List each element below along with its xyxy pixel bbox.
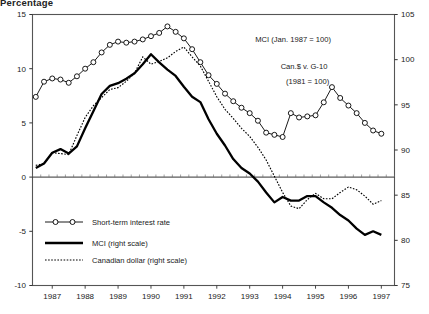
y2-axis-label: 90 <box>401 146 410 155</box>
data-point-marker <box>157 30 162 35</box>
y-axis-label: 5 <box>22 119 27 128</box>
data-point-marker <box>190 47 195 52</box>
x-axis-label: 1993 <box>241 292 259 301</box>
data-point-marker <box>74 74 79 79</box>
data-point-marker <box>354 111 359 116</box>
y2-axis-label: 95 <box>401 101 410 110</box>
x-axis-label: 1989 <box>109 292 127 301</box>
x-axis-label: 1988 <box>76 292 94 301</box>
chart-annotation-1: MCI (Jan. 1987 = 100) <box>255 35 331 44</box>
data-point-marker <box>288 111 293 116</box>
data-point-marker <box>272 132 277 137</box>
plot-frame <box>33 15 395 286</box>
legend-marker-circle <box>53 220 58 225</box>
data-point-marker <box>66 80 71 85</box>
data-point-marker <box>165 24 170 29</box>
y2-axis-label: 105 <box>401 10 415 19</box>
data-point-marker <box>280 134 285 139</box>
series-1 <box>33 24 384 140</box>
data-point-marker <box>255 118 260 123</box>
chart-canvas: -10-505101575808590951001051987198819891… <box>0 0 429 314</box>
series-line-canadian-dollar <box>36 47 382 209</box>
legend-label-interest-rate: Short-term interest rate <box>92 218 170 227</box>
x-axis-label: 1991 <box>175 292 193 301</box>
y-axis-label: 15 <box>17 10 26 19</box>
legend-marker-circle <box>70 220 75 225</box>
data-point-marker <box>371 128 376 133</box>
x-axis-label: 1990 <box>142 292 160 301</box>
data-point-marker <box>132 39 137 44</box>
legend-label-canadian-dollar: Canadian dollar (right scale) <box>92 256 187 265</box>
data-point-marker <box>346 103 351 108</box>
data-point-marker <box>379 131 384 136</box>
y-axis-label: -10 <box>14 281 26 290</box>
x-axis-label: 1996 <box>340 292 358 301</box>
data-point-marker <box>148 34 153 39</box>
data-point-marker <box>124 40 129 45</box>
data-point-marker <box>91 60 96 65</box>
data-point-marker <box>223 91 228 96</box>
y2-axis-label: 80 <box>401 236 410 245</box>
legend-label-mci: MCI (right scale) <box>92 239 148 248</box>
data-point-marker <box>99 50 104 55</box>
x-axis-label: 1992 <box>208 292 226 301</box>
data-point-marker <box>214 81 219 86</box>
chart-annotation-2: Can.$ v. G-10 <box>281 62 328 71</box>
data-point-marker <box>33 94 38 99</box>
data-point-marker <box>264 130 269 135</box>
y2-axis-label: 100 <box>401 55 415 64</box>
data-point-marker <box>116 39 121 44</box>
data-point-marker <box>50 76 55 81</box>
chart-figure: Percentage -10-5051015758085909510010519… <box>0 0 429 314</box>
y2-axis-label: 85 <box>401 191 410 200</box>
series-2 <box>36 54 382 235</box>
data-point-marker <box>305 114 310 119</box>
y-axis-label: -5 <box>19 227 27 236</box>
y2-axis-label: 75 <box>401 281 410 290</box>
y-axis-label: 0 <box>22 173 27 182</box>
data-point-marker <box>247 111 252 116</box>
data-point-marker <box>321 100 326 105</box>
x-axis-label: 1994 <box>274 292 292 301</box>
x-axis-label: 1987 <box>43 292 61 301</box>
data-point-marker <box>42 79 47 84</box>
data-point-marker <box>107 42 112 47</box>
data-point-marker <box>329 85 334 90</box>
data-point-marker <box>181 36 186 41</box>
data-point-marker <box>58 77 63 82</box>
series-3 <box>36 47 382 209</box>
data-point-marker <box>173 29 178 34</box>
data-point-marker <box>362 120 367 125</box>
data-point-marker <box>140 37 145 42</box>
x-axis-label: 1997 <box>372 292 390 301</box>
y-axis-label: 10 <box>17 65 26 74</box>
data-point-marker <box>297 115 302 120</box>
data-point-marker <box>231 99 236 104</box>
data-point-marker <box>239 105 244 110</box>
chart-annotation-3: (1981 = 100) <box>286 77 330 86</box>
data-point-marker <box>83 66 88 71</box>
x-axis-label: 1995 <box>307 292 325 301</box>
series-line-mci <box>36 54 382 235</box>
data-point-marker <box>313 113 318 118</box>
data-point-marker <box>338 95 343 100</box>
